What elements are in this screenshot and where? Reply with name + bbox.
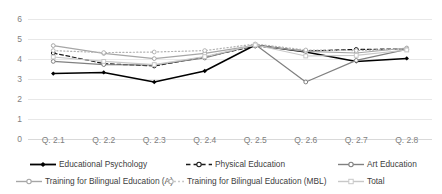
x-tick-label-5: Q. 2.5 <box>244 136 267 145</box>
x-tick-label-3: Q. 2.3 <box>143 136 166 145</box>
data-point <box>152 63 156 67</box>
legend-item-training-for-bilingual-education-mbl[interactable]: Training for Bilingual Education (MBL) <box>158 177 326 186</box>
data-point <box>51 55 55 59</box>
legend-row-1: Educational PsychologyPhysical Education… <box>8 156 434 173</box>
legend-item-educational-psychology[interactable]: Educational Psychology <box>30 160 147 169</box>
legend-key-icon <box>16 177 42 186</box>
data-point <box>152 80 156 84</box>
data-point <box>405 48 409 52</box>
chart-legend: Educational PsychologyPhysical Education… <box>0 152 442 194</box>
plot-area: 0123456 Q. 2.1Q. 2.2Q. 2.3Q. 2.4Q. 2.5Q.… <box>0 0 442 150</box>
x-tick-label-6: Q. 2.6 <box>294 136 317 145</box>
legend-item-training-for-bilingual-education-a[interactable]: Training for Bilingual Education (A) <box>16 177 173 186</box>
legend-label: Training for Bilingual Education (MBL) <box>187 177 326 186</box>
x-tick-label-7: Q. 2.7 <box>345 136 368 145</box>
x-tick-label-4: Q. 2.4 <box>193 136 216 145</box>
series-lines <box>0 0 442 150</box>
data-point <box>304 48 308 52</box>
data-point <box>253 43 257 47</box>
data-point <box>152 57 156 61</box>
data-point <box>152 50 156 54</box>
data-point <box>354 59 358 63</box>
data-point <box>354 49 358 53</box>
data-point <box>102 60 106 64</box>
data-point <box>102 51 106 55</box>
legend-key-icon <box>186 160 212 169</box>
legend-key-icon <box>338 160 364 169</box>
legend-label: Physical Education <box>215 160 285 169</box>
data-point <box>51 60 55 64</box>
x-tick-label-1: Q. 2.1 <box>42 136 65 145</box>
data-point <box>203 55 207 59</box>
data-point <box>51 44 55 48</box>
legend-label: Educational Psychology <box>59 160 147 169</box>
legend-item-art-education[interactable]: Art Education <box>338 160 417 169</box>
legend-key-icon <box>338 177 364 186</box>
data-point <box>203 49 207 53</box>
legend-key-icon <box>30 160 56 169</box>
x-tick-label-2: Q. 2.2 <box>92 136 115 145</box>
data-point <box>51 49 55 53</box>
legend-label: Total <box>367 177 385 186</box>
legend-item-total[interactable]: Total <box>338 177 385 186</box>
legend-key-icon <box>158 177 184 186</box>
data-point <box>304 80 308 84</box>
legend-label: Art Education <box>367 160 417 169</box>
legend-item-physical-education[interactable]: Physical Education <box>186 160 285 169</box>
line-chart: 0123456 Q. 2.1Q. 2.2Q. 2.3Q. 2.4Q. 2.5Q.… <box>0 0 442 194</box>
data-point <box>304 54 308 58</box>
legend-label: Training for Bilingual Education (A) <box>45 177 173 186</box>
data-point <box>102 70 106 74</box>
data-point <box>405 56 409 60</box>
data-point <box>354 54 358 58</box>
data-point <box>51 71 55 75</box>
x-tick-label-8: Q. 2.8 <box>395 136 418 145</box>
legend-row-2: Training for Bilingual Education (A)Trai… <box>8 173 434 190</box>
